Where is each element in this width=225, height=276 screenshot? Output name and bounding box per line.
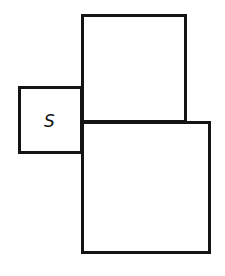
bottom-square: [81, 121, 211, 254]
top-square: [81, 14, 187, 123]
square-label-s: S: [44, 111, 55, 131]
